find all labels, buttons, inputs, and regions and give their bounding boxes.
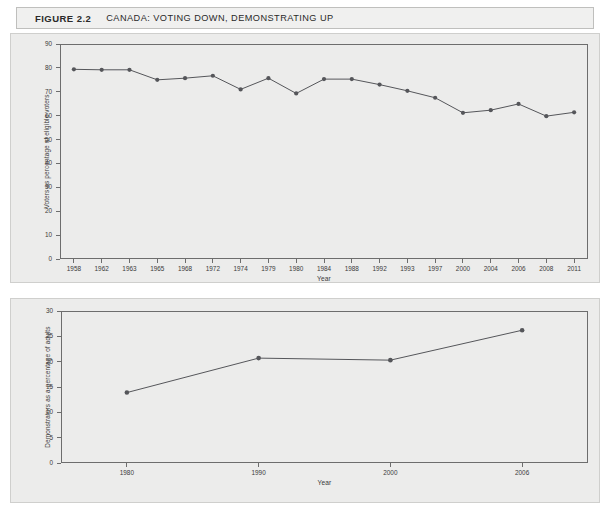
data-point-marker (155, 78, 159, 82)
data-point-marker (266, 76, 270, 80)
x-tick-mark (185, 259, 186, 263)
y-tick-mark (57, 437, 61, 438)
y-tick-label: 5 (27, 434, 53, 441)
data-point-marker (127, 68, 131, 72)
y-tick-label: 25 (27, 332, 53, 339)
data-point-marker (322, 77, 326, 81)
y-tick-label: 40 (26, 159, 52, 166)
demonstrating-chart-x-axis-label: Year (61, 479, 588, 486)
data-point-marker (461, 111, 465, 115)
x-tick-mark (101, 259, 102, 263)
x-tick-label: 2006 (502, 469, 542, 476)
y-tick-mark (56, 259, 60, 260)
x-tick-mark (574, 259, 575, 263)
y-tick-mark (56, 67, 60, 68)
y-tick-label: 10 (26, 231, 52, 238)
voting-chart-x-axis-label: Year (60, 275, 588, 282)
y-tick-label: 90 (26, 40, 52, 47)
figure-title-bar: FIGURE 2.2 CANADA: VOTING DOWN, DEMONSTR… (16, 7, 594, 29)
y-tick-mark (57, 412, 61, 413)
y-tick-mark (56, 235, 60, 236)
data-point-marker (211, 74, 215, 78)
data-point-marker (572, 110, 576, 114)
figure-title: CANADA: VOTING DOWN, DEMONSTRATING UP (106, 13, 333, 23)
x-tick-mark (462, 259, 463, 263)
y-tick-label: 10 (27, 408, 53, 415)
y-tick-mark (57, 311, 61, 312)
y-tick-mark (57, 361, 61, 362)
y-tick-mark (57, 336, 61, 337)
x-tick-label: 2000 (370, 469, 410, 476)
data-point-marker (350, 77, 354, 81)
data-point-marker (520, 328, 525, 333)
series-line (74, 69, 574, 116)
y-tick-mark (56, 44, 60, 45)
data-point-marker (100, 68, 104, 72)
x-tick-mark (546, 259, 547, 263)
data-point-marker (183, 76, 187, 80)
data-point-marker (433, 96, 437, 100)
y-tick-mark (56, 211, 60, 212)
data-point-marker (377, 83, 381, 87)
y-tick-label: 20 (26, 207, 52, 214)
y-tick-mark (56, 163, 60, 164)
voting-chart-series (11, 34, 599, 282)
x-tick-mark (351, 259, 352, 263)
x-tick-mark (490, 259, 491, 263)
y-tick-label: 60 (26, 112, 52, 119)
x-tick-mark (435, 259, 436, 263)
data-point-marker (405, 89, 409, 93)
data-point-marker (256, 356, 261, 361)
x-tick-mark (379, 259, 380, 263)
y-tick-label: 20 (27, 358, 53, 365)
data-point-marker (239, 87, 243, 91)
x-tick-mark (407, 259, 408, 263)
voting-chart: Voters as percentage of eligible voters … (11, 34, 599, 282)
x-tick-mark (129, 259, 130, 263)
x-tick-mark (258, 463, 259, 467)
x-tick-label: 1980 (107, 469, 147, 476)
x-tick-mark (73, 259, 74, 263)
data-point-marker (294, 91, 298, 95)
y-tick-label: 0 (26, 255, 52, 262)
x-tick-mark (522, 463, 523, 467)
x-tick-mark (268, 259, 269, 263)
data-point-marker (544, 114, 548, 118)
x-tick-mark (157, 259, 158, 263)
x-tick-mark (212, 259, 213, 263)
figure-number: FIGURE 2.2 (35, 13, 91, 24)
y-tick-mark (56, 187, 60, 188)
y-tick-label: 80 (26, 64, 52, 71)
voting-chart-panel: Voters as percentage of eligible voters … (10, 33, 600, 283)
data-point-marker (489, 108, 493, 112)
x-tick-mark (390, 463, 391, 467)
y-tick-mark (56, 115, 60, 116)
x-tick-label: 2011 (554, 265, 594, 272)
y-tick-label: 30 (27, 307, 53, 314)
y-tick-mark (56, 91, 60, 92)
y-tick-label: 50 (26, 136, 52, 143)
data-point-marker (125, 390, 130, 395)
y-tick-label: 70 (26, 88, 52, 95)
data-point-marker (388, 358, 393, 363)
y-tick-mark (57, 387, 61, 388)
y-tick-label: 15 (27, 383, 53, 390)
y-tick-mark (56, 139, 60, 140)
y-tick-label: 0 (27, 459, 53, 466)
x-tick-mark (296, 259, 297, 263)
figure-page: FIGURE 2.2 CANADA: VOTING DOWN, DEMONSTR… (0, 0, 610, 510)
x-tick-mark (126, 463, 127, 467)
x-tick-mark (240, 259, 241, 263)
demonstrating-chart-panel: Demonstrators as a percentage of adults … (10, 298, 600, 503)
x-tick-label: 1990 (239, 469, 279, 476)
x-tick-mark (324, 259, 325, 263)
x-tick-mark (518, 259, 519, 263)
data-point-marker (516, 102, 520, 106)
y-tick-label: 30 (26, 183, 52, 190)
data-point-marker (72, 67, 76, 71)
y-tick-mark (57, 463, 61, 464)
series-line (127, 330, 522, 392)
demonstrating-chart: Demonstrators as a percentage of adults … (11, 299, 599, 502)
